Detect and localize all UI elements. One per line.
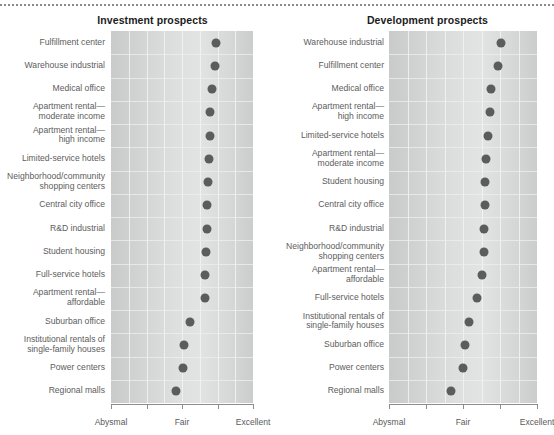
data-point-dot[interactable]: [202, 247, 211, 256]
data-point-dot[interactable]: [179, 364, 188, 373]
panel-development-prospects: Development prospects Warehouse industri…: [277, 0, 554, 435]
chart-title-development: Development prospects: [277, 14, 554, 26]
horizontal-gridline: [389, 124, 537, 125]
data-point-dot[interactable]: [479, 247, 488, 256]
category-label: Limited-service hotels: [272, 131, 384, 141]
horizontal-gridline: [111, 310, 253, 311]
category-label: Fulfillment center: [0, 38, 105, 48]
category-label: Warehouse industrial: [0, 61, 105, 71]
category-label: R&D industrial: [0, 224, 105, 234]
horizontal-gridline: [389, 357, 537, 358]
category-label: Apartment rental— affordable: [272, 265, 384, 285]
data-point-dot[interactable]: [204, 178, 213, 187]
data-point-dot[interactable]: [480, 201, 489, 210]
horizontal-gridline: [111, 357, 253, 358]
x-axis-tick-label: Abysmal: [373, 417, 406, 427]
category-label: Apartment rental— affordable: [0, 289, 105, 309]
category-label: Full-service hotels: [0, 270, 105, 280]
category-label: Institutional rentals of single-family h…: [0, 335, 105, 355]
data-point-dot[interactable]: [205, 154, 214, 163]
category-label: Apartment rental— high income: [272, 103, 384, 123]
x-axis-tick: [537, 404, 538, 409]
data-point-dot[interactable]: [179, 340, 188, 349]
category-label: Fulfillment center: [272, 61, 384, 71]
category-label: Medical office: [272, 84, 384, 94]
category-label: Full-service hotels: [272, 293, 384, 303]
horizontal-gridline: [389, 240, 537, 241]
horizontal-gridline: [111, 217, 253, 218]
category-label: Apartment rental— high income: [0, 126, 105, 146]
x-axis-tick: [463, 404, 464, 409]
category-label: Suburban office: [0, 317, 105, 327]
category-label: Apartment rental— moderate income: [272, 149, 384, 169]
data-point-dot[interactable]: [496, 38, 505, 47]
data-point-dot[interactable]: [200, 294, 209, 303]
horizontal-gridline: [389, 54, 537, 55]
x-axis-tick: [389, 404, 390, 409]
horizontal-gridline: [389, 171, 537, 172]
figure-root: Investment prospects Fulfillment centerW…: [0, 0, 554, 435]
category-label: Central city office: [0, 200, 105, 210]
data-point-dot[interactable]: [483, 131, 492, 140]
horizontal-gridline: [111, 171, 253, 172]
category-label: Suburban office: [272, 340, 384, 350]
data-point-dot[interactable]: [206, 131, 215, 140]
horizontal-gridline: [111, 380, 253, 381]
data-point-dot[interactable]: [171, 387, 180, 396]
horizontal-gridline: [111, 194, 253, 195]
horizontal-gridline: [389, 194, 537, 195]
horizontal-gridline: [111, 54, 253, 55]
x-axis-tick: [500, 404, 501, 409]
category-label: Power centers: [0, 363, 105, 373]
x-axis-tick-label: Abysmal: [95, 417, 128, 427]
horizontal-gridline: [389, 147, 537, 148]
category-label: Student housing: [0, 247, 105, 257]
category-label: Limited-service hotels: [0, 154, 105, 164]
horizontal-gridline: [389, 380, 537, 381]
data-point-dot[interactable]: [485, 108, 494, 117]
x-axis-tick-label: Fair: [456, 417, 471, 427]
horizontal-gridline: [389, 310, 537, 311]
data-point-dot[interactable]: [480, 224, 489, 233]
x-axis-tick: [218, 404, 219, 409]
data-point-dot[interactable]: [211, 38, 220, 47]
data-point-dot[interactable]: [481, 154, 490, 163]
category-label: Institutional rentals of single-family h…: [272, 312, 384, 332]
data-point-dot[interactable]: [481, 178, 490, 187]
data-point-dot[interactable]: [459, 364, 468, 373]
category-label: Regional malls: [0, 386, 105, 396]
data-point-dot[interactable]: [461, 340, 470, 349]
x-axis-tick: [253, 404, 254, 409]
horizontal-gridline: [111, 78, 253, 79]
data-point-dot[interactable]: [473, 294, 482, 303]
x-axis-tick-label: Excellent: [236, 417, 271, 427]
category-label: R&D industrial: [272, 224, 384, 234]
horizontal-gridline: [389, 101, 537, 102]
data-point-dot[interactable]: [211, 61, 220, 70]
data-point-dot[interactable]: [477, 271, 486, 280]
category-label: Neighborhood/community shopping centers: [0, 172, 105, 192]
category-label: Regional malls: [272, 386, 384, 396]
chart-title-investment: Investment prospects: [0, 14, 277, 26]
data-point-dot[interactable]: [206, 108, 215, 117]
plot-area-development: [389, 31, 537, 403]
data-point-dot[interactable]: [185, 317, 194, 326]
data-point-dot[interactable]: [447, 387, 456, 396]
horizontal-gridline: [389, 287, 537, 288]
horizontal-gridline: [111, 147, 253, 148]
x-axis-tick: [426, 404, 427, 409]
horizontal-gridline: [111, 101, 253, 102]
plot-area-investment: [111, 31, 253, 403]
horizontal-gridline: [111, 264, 253, 265]
data-point-dot[interactable]: [487, 85, 496, 94]
x-axis-tick: [147, 404, 148, 409]
data-point-dot[interactable]: [201, 271, 210, 280]
data-point-dot[interactable]: [207, 85, 216, 94]
data-point-dot[interactable]: [202, 224, 211, 233]
category-label: Power centers: [272, 363, 384, 373]
category-label: Central city office: [272, 200, 384, 210]
x-axis-tick: [182, 404, 183, 409]
data-point-dot[interactable]: [203, 201, 212, 210]
data-point-dot[interactable]: [464, 317, 473, 326]
data-point-dot[interactable]: [493, 61, 502, 70]
